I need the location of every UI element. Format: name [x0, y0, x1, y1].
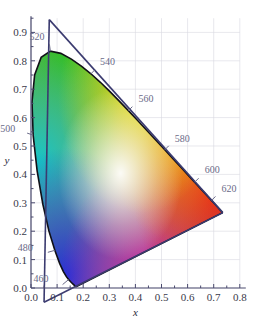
y-tick-label: 0.3 [13, 197, 27, 209]
gamut-fill [25, 12, 233, 299]
wavelength-label-480: 480 [18, 242, 33, 253]
x-tick-label: 0.2 [76, 291, 90, 303]
wavelength-tick-460 [63, 280, 69, 285]
y-tick-label: 0.5 [13, 140, 27, 152]
chart-svg: 0.00.10.20.30.40.50.60.70.80.00.10.20.30… [0, 0, 257, 318]
wavelength-tick-520 [49, 44, 50, 51]
x-tick-label: 0.7 [207, 291, 221, 303]
wavelength-tick-600 [195, 178, 199, 182]
y-tick-label: 0.4 [13, 168, 27, 180]
wavelength-tick-540 [91, 70, 95, 74]
y-tick-label: 0.6 [13, 112, 27, 124]
wavelength-label-580: 580 [175, 133, 190, 144]
cie-chromaticity-diagram: 0.00.10.20.30.40.50.60.70.80.00.10.20.30… [0, 0, 257, 318]
y-axis-title: y [4, 154, 10, 166]
wavelength-label-620: 620 [221, 183, 236, 194]
x-tick-label: 0.6 [181, 291, 195, 303]
gamut-gradient-group [25, 12, 233, 299]
wavelength-label-460: 460 [34, 273, 49, 284]
x-tick-label: 0.5 [155, 291, 169, 303]
wavelength-label-500: 500 [0, 123, 15, 134]
y-tick-label: 0.2 [13, 225, 27, 237]
y-tick-label: 0.1 [13, 254, 27, 266]
y-tick-label: 0.0 [13, 282, 27, 294]
gamut-gWhite [25, 12, 233, 299]
y-tick-label: 0.7 [13, 83, 27, 95]
x-tick-label: 0.8 [233, 291, 247, 303]
x-axis-title: x [132, 306, 138, 318]
wavelength-label-560: 560 [138, 93, 153, 104]
wavelength-label-520: 520 [29, 31, 44, 42]
wavelength-label-540: 540 [100, 56, 115, 67]
y-tick-label: 0.9 [13, 26, 27, 38]
x-tick-label: 0.4 [129, 291, 143, 303]
x-tick-label: 0.1 [50, 291, 64, 303]
wavelength-label-600: 600 [205, 164, 220, 175]
wavelength-tick-480 [48, 250, 55, 252]
wavelength-tick-500 [27, 133, 33, 135]
y-tick-label: 0.8 [13, 55, 27, 67]
x-tick-label: 0.3 [102, 291, 116, 303]
